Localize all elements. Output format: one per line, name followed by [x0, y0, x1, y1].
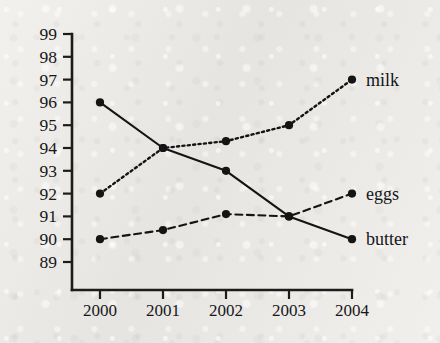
x-axis-tick-label: 2002 [209, 301, 243, 320]
y-axis-tick-label: 98 [40, 47, 58, 67]
series-label-eggs: eggs [366, 184, 399, 204]
data-point-butter [348, 235, 356, 243]
data-point-milk [96, 190, 104, 198]
series-label-milk: milk [366, 70, 399, 90]
line-chart: 9998979695949392919089 20002001200220032… [0, 0, 440, 343]
y-axis-tick-label: 94 [40, 138, 58, 158]
y-axis-tick-label: 96 [40, 92, 58, 112]
y-axis-tick-label: 89 [40, 252, 58, 272]
x-axis-tick-label: 2001 [146, 301, 180, 320]
chart-canvas: 9998979695949392919089 20002001200220032… [0, 0, 440, 343]
series-labels: milkeggsbutter [366, 70, 408, 250]
series-layer [96, 76, 356, 244]
x-axis-tick-label: 2004 [335, 301, 370, 320]
x-axis-tick-label: 2000 [83, 301, 117, 320]
data-point-milk [348, 76, 356, 84]
data-point-eggs [96, 235, 104, 243]
data-point-butter [285, 212, 293, 220]
y-axis-tick-label: 92 [40, 184, 58, 204]
data-point-milk [285, 121, 293, 129]
y-axis-tick-label: 95 [40, 115, 58, 135]
x-axis-tick-label: 2003 [272, 301, 306, 320]
data-point-butter [222, 167, 230, 175]
y-axis-tick-label: 99 [40, 24, 58, 44]
series-label-butter: butter [366, 229, 408, 249]
data-point-milk [222, 137, 230, 145]
x-axis: 20002001200220032004 [72, 290, 370, 320]
data-point-butter [159, 144, 167, 152]
series-line-milk [100, 80, 352, 194]
y-axis-tick-label: 90 [40, 229, 58, 249]
y-axis-tick-label: 91 [40, 206, 58, 226]
data-point-eggs [159, 226, 167, 234]
y-axis: 9998979695949392919089 [40, 24, 73, 290]
data-point-eggs [348, 190, 356, 198]
y-axis-tick-label: 97 [40, 70, 58, 90]
y-axis-tick-label: 93 [40, 161, 58, 181]
data-point-butter [96, 98, 104, 106]
data-point-eggs [222, 210, 230, 218]
